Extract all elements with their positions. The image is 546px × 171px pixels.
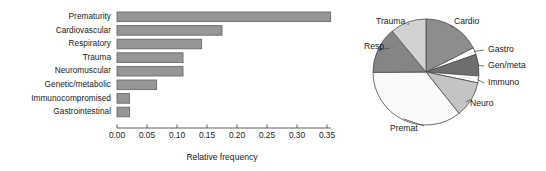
pie-slice-label: Gastro <box>488 44 514 54</box>
bar-rect <box>117 80 157 90</box>
x-axis-tick-label: 0.10 <box>169 130 186 140</box>
pie-leader-line <box>474 50 484 52</box>
bar-series <box>117 12 331 117</box>
bar-category-label: Immunocompromised <box>31 93 111 103</box>
bar-rect <box>117 39 202 49</box>
bar-x-axis <box>117 125 331 129</box>
bar-chart-panel: PrematurityCardiovascularRespiratoryTrau… <box>0 0 340 171</box>
x-axis-tick-label: 0.05 <box>139 130 156 140</box>
pie-slice-label: Trauma <box>376 16 406 26</box>
bar-category-label: Neuromuscular <box>55 65 111 75</box>
bar-category-labels: PrematurityCardiovascularRespiratoryTrau… <box>31 11 112 116</box>
x-axis-tick-label: 0.00 <box>109 130 126 140</box>
bar-category-label: Prematurity <box>69 11 112 21</box>
pie-slice-label: Premat <box>390 123 418 133</box>
x-axis-tick-label: 0.20 <box>229 130 246 140</box>
x-axis-tick-label: 0.35 <box>319 130 336 140</box>
x-axis-title: Relative frequency <box>186 152 258 162</box>
bar-rect <box>117 12 331 22</box>
pie-slice-label: Immuno <box>488 77 519 87</box>
pie-slice-label: Cardio <box>454 16 480 26</box>
pie-chart-svg: CardioGastroGen/metaImmunoNeuroPrematRes… <box>340 0 546 171</box>
bar-rect <box>117 26 222 36</box>
pie-chart-panel: CardioGastroGen/metaImmunoNeuroPrematRes… <box>340 0 546 171</box>
pie-slice-label: Resp <box>364 41 384 51</box>
bar-category-label: Cardiovascular <box>56 25 112 35</box>
bar-rect <box>117 66 183 76</box>
pie-slice-label: Neuro <box>470 98 494 108</box>
bar-rect <box>117 107 130 117</box>
pie-slice-label: Gen/meta <box>488 60 526 70</box>
bar-category-label: Genetic/metabolic <box>45 79 111 89</box>
bar-category-label: Respiratory <box>69 38 112 48</box>
x-axis-tick-label: 0.15 <box>199 130 216 140</box>
bar-rect <box>117 53 183 63</box>
bar-x-tick-labels: 0.000.050.100.150.200.250.300.35 <box>109 130 336 140</box>
figure-container: PrematurityCardiovascularRespiratoryTrau… <box>0 0 546 171</box>
bar-category-label: Gastrointestinal <box>53 106 111 116</box>
x-axis-tick-label: 0.25 <box>259 130 276 140</box>
x-axis-tick-label: 0.30 <box>289 130 306 140</box>
bar-category-label: Trauma <box>83 52 112 62</box>
pie-slices <box>373 19 479 125</box>
bar-rect <box>117 94 130 104</box>
bar-chart-svg: PrematurityCardiovascularRespiratoryTrau… <box>0 0 340 171</box>
